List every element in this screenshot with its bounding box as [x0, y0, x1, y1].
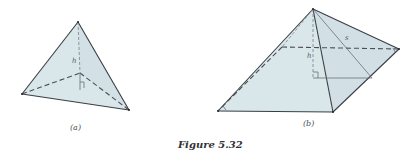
- pyramid-vertex-apex: [312, 8, 314, 10]
- panel-b-label: (b): [303, 120, 314, 128]
- figure-caption: Figure 5.32: [178, 139, 243, 150]
- tetrahedron-vertex-right: [128, 109, 130, 111]
- pyramid-vertex-front-right: [332, 111, 334, 113]
- tetrahedron-vertex-left: [21, 93, 23, 95]
- tetrahedron-height-label: h: [72, 58, 77, 65]
- square-pyramid-diagram: [217, 8, 400, 113]
- panel-a-label: (a): [70, 124, 81, 132]
- pyramid-slant-height-label: s: [345, 35, 349, 42]
- tetrahedron-diagram: [21, 21, 130, 111]
- pyramid-vertex-back-right: [398, 48, 400, 50]
- pyramid-vertex-front-left: [217, 110, 219, 112]
- pyramid-height-label: h: [307, 53, 312, 60]
- figure-canvas: [0, 0, 418, 161]
- tetrahedron-vertex-apex: [77, 21, 79, 23]
